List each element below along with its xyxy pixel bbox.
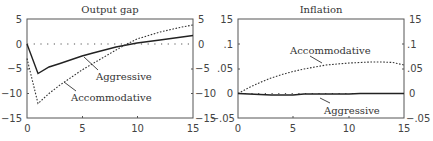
- y-tick-label: −5: [7, 63, 22, 74]
- output-gap-aggressive-line: [27, 36, 193, 74]
- y-tick-label: .1: [223, 39, 233, 50]
- inflation-aggressive-line: [238, 94, 404, 96]
- x-tick-label: 0: [235, 123, 241, 134]
- aggressive-leader-line: [320, 98, 330, 103]
- y-tick-label: 0: [198, 39, 204, 50]
- accommodative-label: Accommodative: [70, 92, 152, 103]
- aggressive-label: Aggressive: [95, 71, 152, 82]
- accommodative-label: Accommodative: [289, 45, 371, 56]
- x-tick-label: 15: [187, 123, 200, 134]
- x-tick-label: 10: [343, 123, 356, 134]
- y-tick-label: .05: [217, 63, 233, 74]
- inflation-frame: [238, 19, 404, 118]
- y-tick-label: 15: [409, 14, 422, 25]
- x-tick-label: 15: [398, 123, 411, 134]
- y-tick-label: −5: [195, 63, 210, 74]
- inflation-title: Inflation: [300, 4, 343, 15]
- x-tick-label: 10: [131, 123, 144, 134]
- x-tick-label: 5: [290, 123, 296, 134]
- output-gap-frame: [27, 19, 193, 118]
- output-gap-left-y-axis: 5 0 −5 −10 −15: [1, 14, 29, 124]
- inflation-accommodative-line: [238, 62, 404, 94]
- x-tick-label: 0: [24, 123, 30, 134]
- y-tick-label: 15: [220, 14, 233, 25]
- output-gap-title: Output gap: [81, 4, 138, 15]
- y-tick-label: −.05: [211, 113, 235, 124]
- chart-canvas: Output gap 5 0 −5 −10 −15 5 0 −5 −10 −15…: [0, 0, 433, 141]
- output-gap-x-axis: 0 5 10 15: [24, 116, 199, 134]
- inflation-left-y-axis: 15 .1 .05 0 −.05: [211, 14, 240, 124]
- y-tick-label: −10: [1, 88, 22, 99]
- inflation-x-axis: 0 5 10 15: [235, 116, 411, 134]
- y-tick-label: .05: [407, 63, 423, 74]
- output-gap-right-y-axis: 5 0 −5 −10 −15: [191, 14, 216, 124]
- accommodative-leader-line: [310, 56, 322, 63]
- accommodative-leader-line: [64, 82, 76, 91]
- y-tick-label: 0: [227, 88, 233, 99]
- y-tick-label: −.05: [406, 113, 430, 124]
- y-tick-label: −10: [195, 88, 216, 99]
- y-tick-label: .1: [407, 39, 417, 50]
- y-tick-label: 5: [16, 14, 22, 25]
- y-tick-label: 0: [16, 39, 22, 50]
- y-tick-label: 5: [198, 14, 204, 25]
- inflation-panel: Inflation 15 .1 .05 0 −.05 15 .1 .05 0 −…: [211, 4, 431, 134]
- output-gap-panel: Output gap 5 0 −5 −10 −15 5 0 −5 −10 −15…: [1, 4, 216, 134]
- y-tick-label: 0: [409, 88, 415, 99]
- x-tick-label: 5: [79, 123, 85, 134]
- y-tick-label: −15: [1, 113, 22, 124]
- inflation-right-y-axis: 15 .1 .05 0 −.05: [402, 14, 430, 124]
- aggressive-label: Aggressive: [323, 105, 380, 116]
